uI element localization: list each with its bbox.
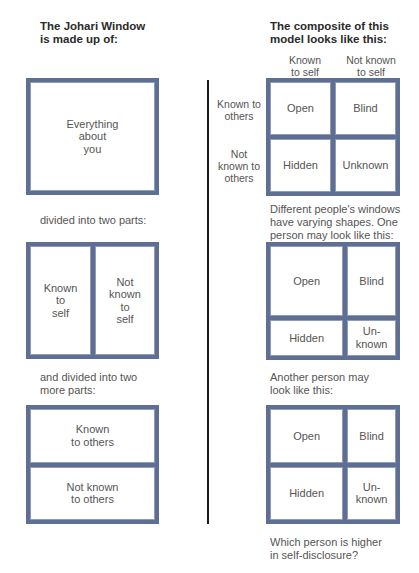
- pane-known-to-others: Known to others: [30, 409, 155, 463]
- column-label-known-to-self: Known to self: [270, 54, 340, 78]
- pane-hidden: Hidden: [270, 139, 331, 192]
- person-one-pane-hidden: Hidden: [270, 320, 343, 356]
- caption-two-parts: divided into two parts:: [40, 214, 146, 227]
- row-label-known-to-others: Known to others: [210, 98, 268, 122]
- column-label-not-known-to-self: Not known to self: [336, 54, 406, 78]
- person-one-pane-blind: Blind: [347, 246, 396, 316]
- left-heading: The Johari Window is made up of:: [40, 20, 145, 46]
- pane-everything-about-you: Everything about you: [30, 82, 155, 191]
- column-divider: [207, 80, 209, 524]
- person-one-pane-open: Open: [270, 246, 343, 316]
- self-window-frame: Known to self Not known to self: [26, 242, 159, 359]
- pane-not-known-to-others: Not known to others: [30, 467, 155, 521]
- person-two-pane-blind: Blind: [347, 409, 396, 463]
- pane-blind: Blind: [335, 82, 396, 135]
- pane-not-known-to-self: Not known to self: [95, 246, 155, 355]
- pane-unknown: Unknown: [335, 139, 396, 192]
- person-one-pane-unknown: Un- known: [347, 320, 396, 356]
- pane-known-to-self: Known to self: [30, 246, 91, 355]
- caption-varying-shapes: Different people's windows have varying …: [270, 203, 400, 242]
- row-label-not-known-to-others: Not known to others: [210, 148, 268, 184]
- pane-open: Open: [270, 82, 331, 135]
- whole-window-frame: Everything about you: [26, 78, 159, 195]
- right-heading: The composite of this model looks like t…: [270, 20, 389, 46]
- person-two-pane-open: Open: [270, 409, 343, 463]
- person-one-window-frame: Open Blind Hidden Un- known: [266, 242, 400, 360]
- person-two-window-frame: Open Blind Hidden Un- known: [266, 405, 400, 524]
- others-window-frame: Known to others Not known to others: [26, 405, 159, 524]
- person-two-pane-unknown: Un- known: [347, 467, 396, 521]
- person-two-pane-hidden: Hidden: [270, 467, 343, 521]
- caption-another-person: Another person may look like this:: [270, 371, 369, 397]
- question-self-disclosure: Which person is higher in self-disclosur…: [270, 536, 382, 562]
- caption-more-parts: and divided into two more parts:: [40, 371, 137, 397]
- composite-window-frame: Open Blind Hidden Unknown: [266, 78, 400, 196]
